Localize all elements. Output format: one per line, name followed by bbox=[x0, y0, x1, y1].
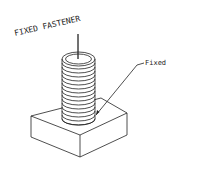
fastener-diagram: FIXED FASTENER bbox=[0, 0, 204, 176]
diagram-title: FIXED FASTENER bbox=[13, 14, 81, 38]
callout-label: Fixed bbox=[145, 59, 166, 67]
threaded-stud bbox=[62, 34, 95, 125]
fixed-callout: Fixed bbox=[96, 59, 166, 115]
